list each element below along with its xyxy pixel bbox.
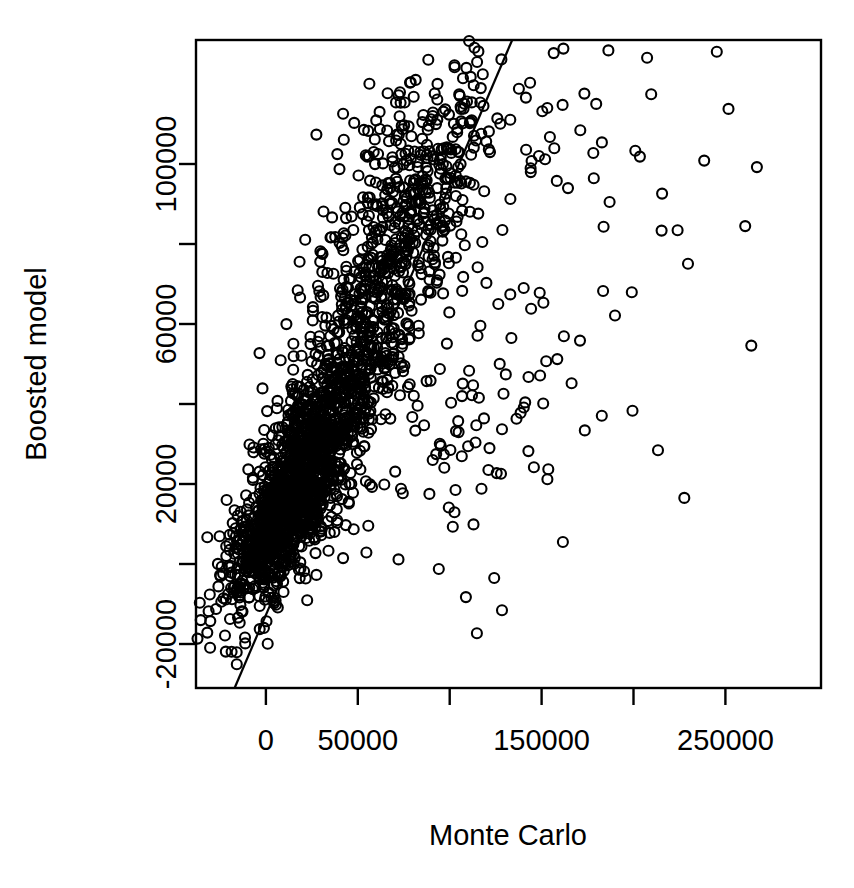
scatter-point [549, 143, 559, 153]
scatter-point [497, 424, 507, 434]
scatter-plot-figure: 050000150000250000 -20000200006000010000… [0, 0, 854, 888]
scatter-point [435, 364, 445, 374]
scatter-point [349, 118, 359, 128]
scatter-point [524, 372, 534, 382]
scatter-point [434, 564, 444, 574]
scatter-point [464, 366, 474, 376]
scatter-point [646, 89, 656, 99]
scatter-point [469, 519, 479, 529]
scatter-point [338, 553, 348, 563]
scatter-point [545, 132, 555, 142]
scatter-point [433, 79, 443, 89]
scatter-point [538, 298, 548, 308]
scatter-point [288, 339, 298, 349]
scatter-point [202, 628, 212, 638]
scatter-point [526, 304, 536, 314]
scatter-point [458, 272, 468, 282]
scatter-point [340, 203, 350, 213]
scatter-point [575, 125, 585, 135]
scatter-point [473, 331, 483, 341]
scatter-point [499, 389, 509, 399]
y-tick-label-2: 20000 [150, 444, 182, 525]
scatter-point [521, 93, 531, 103]
scatter-point [552, 176, 562, 186]
scatter-point [657, 189, 667, 199]
scatter-point [549, 48, 559, 58]
scatter-point [673, 225, 683, 235]
scatter-point [538, 399, 548, 409]
scatter-point [591, 99, 601, 109]
scatter-point [597, 137, 607, 147]
scatter-point [552, 354, 562, 364]
scatter-point [451, 485, 461, 495]
scatter-point [724, 104, 734, 114]
y-axis-title: Boosted model [20, 267, 52, 460]
scatter-point [205, 643, 215, 653]
scatter-point [363, 521, 373, 531]
scatter-point [563, 183, 573, 193]
scatter-point [390, 467, 400, 477]
scatter-point [444, 307, 454, 317]
scatter-point [472, 628, 482, 638]
scatter-point [535, 288, 545, 298]
scatter-point [627, 287, 637, 297]
scatter-point [473, 262, 483, 272]
scatter-point [657, 226, 667, 236]
scatter-point [543, 464, 553, 474]
scatter-point [394, 554, 404, 564]
scatter-point [319, 207, 329, 217]
scatter-point [220, 631, 230, 641]
scatter-point [521, 145, 531, 155]
scatter-point [295, 257, 305, 267]
scatter-point [610, 311, 620, 321]
scatter-point [255, 348, 265, 358]
scatter-point [311, 570, 321, 580]
scatter-point [335, 164, 345, 174]
scatter-point [424, 489, 434, 499]
x-tick-label-1: 50000 [317, 724, 398, 756]
scatter-point [699, 156, 709, 166]
scatter-point [519, 283, 529, 293]
scatter-point [288, 365, 298, 375]
scatter-point [453, 416, 463, 426]
scatter-point [472, 57, 482, 67]
scatter-point [354, 171, 364, 181]
y-axis-tick-labels: -200002000060000100000 [150, 116, 182, 690]
scatter-point [588, 148, 598, 158]
scatter-point [446, 398, 456, 408]
scatter-point [471, 420, 481, 430]
scatter-point [442, 339, 452, 349]
scatter-point [493, 299, 503, 309]
scatter-point [222, 495, 232, 505]
scatter-point [605, 197, 615, 207]
scatter-point [505, 289, 515, 299]
scatter-point [407, 412, 417, 422]
scatter-point [281, 319, 291, 329]
scatter-point [279, 587, 289, 597]
scatter-point [514, 84, 524, 94]
scatter-point [302, 595, 312, 605]
scatter-point [746, 341, 756, 351]
scatter-point [535, 371, 545, 381]
scatter-point [558, 537, 568, 547]
scatter-point [468, 380, 478, 390]
scatter-point [406, 131, 416, 141]
scatter-point [495, 359, 505, 369]
y-axis-ticks [179, 164, 196, 644]
x-tick-label-5: 250000 [677, 724, 774, 756]
scatter-point [258, 383, 268, 393]
scatter-point [365, 176, 375, 186]
scatter-point [215, 531, 225, 541]
scatter-point [439, 463, 449, 473]
scatter-point [542, 474, 552, 484]
scatter-point [457, 391, 467, 401]
scatter-point [497, 605, 507, 615]
scatter-point [457, 451, 467, 461]
scatter-point [263, 639, 273, 649]
scatter-points-layer [193, 36, 762, 669]
scatter-point [489, 573, 499, 583]
scatter-point [457, 286, 467, 296]
scatter-point [558, 44, 568, 54]
scatter-point [276, 355, 286, 365]
scatter-point [364, 79, 374, 89]
